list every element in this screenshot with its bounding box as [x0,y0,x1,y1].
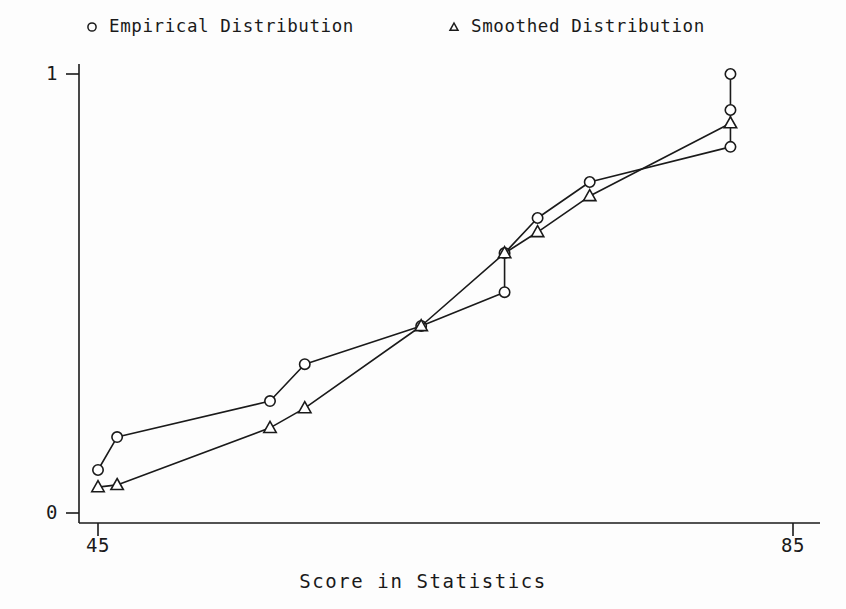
series-empirical [93,69,736,475]
data-point-circle[interactable] [725,69,735,79]
data-point-circle[interactable] [499,287,509,297]
data-point-triangle[interactable] [299,402,311,413]
data-point-circle[interactable] [725,142,735,152]
series-line [98,123,730,487]
x-axis-tick-label-min: 45 [86,534,110,556]
series-smoothed [92,117,737,492]
plot-area [0,0,846,609]
y-axis-tick-label-max: 1 [46,62,58,84]
data-point-triangle[interactable] [724,117,736,128]
x-axis-title: Score in Statistics [0,570,846,592]
data-point-triangle[interactable] [531,226,543,237]
data-point-circle[interactable] [532,213,542,223]
chart-figure: Empirical Distribution Smoothed Distribu… [0,0,846,609]
series-line [98,74,730,470]
data-point-circle[interactable] [585,177,595,187]
y-axis-tick-label-min: 0 [46,501,58,523]
x-axis-tick-label-max: 85 [781,534,805,556]
data-point-circle[interactable] [93,465,103,475]
data-point-triangle[interactable] [264,421,276,432]
data-point-circle[interactable] [725,105,735,115]
data-point-circle[interactable] [265,396,275,406]
data-point-triangle[interactable] [584,190,596,201]
data-point-circle[interactable] [300,359,310,369]
data-point-circle[interactable] [112,432,122,442]
series-layer [92,69,737,492]
